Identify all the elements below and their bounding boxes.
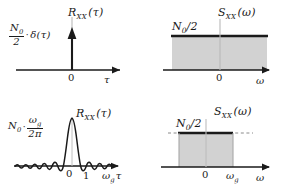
x-tick-label-zero: 0 (202, 170, 209, 180)
curve-label-arg: (ω) (232, 105, 252, 118)
amplitude-label-n0-omegag-2pi: N0· ωg 2π (8, 115, 43, 139)
level-label-base: N (172, 20, 182, 33)
x-axis-arrowhead (111, 163, 119, 170)
level-label-slash: /2 (191, 117, 202, 130)
x-axis-label-omega: ω (256, 76, 264, 86)
amplitude-label-n0-half-delta: N0 2 ·δ(τ) (9, 23, 51, 47)
y-level-label-n0-half: N0/2 (172, 21, 198, 35)
x-axis-label-omegag-tau: ωgτ (102, 171, 121, 184)
curve-label-subscript: XX (76, 13, 86, 21)
fraction-numerator: N0 (9, 23, 24, 37)
fraction-n0-over-2: N0 2 (9, 23, 24, 47)
curve-label-rxx: RXX(τ) (76, 108, 112, 122)
fraction-denominator: 2 (9, 37, 24, 47)
curve-label-sxx: SXX(ω) (214, 106, 252, 120)
x-tick-label-one: 1 (83, 171, 90, 181)
panel-white-noise-autocorrelation: RXX(τ) N0 2 ·δ(τ) 0 τ (0, 0, 140, 97)
x-tick-label-zero: 0 (66, 169, 73, 179)
dirac-impulse-arrowhead (68, 27, 77, 39)
x-axis-label-omega: ω (256, 173, 264, 183)
x-axis-arrowhead (112, 67, 120, 74)
x-tick-label-omegag: ωg (226, 171, 239, 184)
curve-label-base: S (218, 6, 226, 19)
level-label-slash: /2 (187, 20, 198, 33)
level-label-base: N (176, 117, 186, 130)
amplitude-prefix: N0 (8, 121, 21, 134)
x-tick-label-zero: 0 (68, 73, 75, 83)
curve-label-rxx: RXX(τ) (68, 7, 104, 21)
curve-label-subscript: XX (222, 112, 232, 120)
axis-label-suffix: τ (115, 170, 122, 181)
delta-function-label: δ(τ) (30, 30, 50, 40)
figure-container: RXX(τ) N0 2 ·δ(τ) 0 τ SXX(ω) (0, 0, 281, 194)
curve-label-sxx: SXX(ω) (218, 7, 256, 21)
curve-label-arg: (τ) (87, 6, 104, 19)
y-level-label-n0-half: N0/2 (176, 118, 202, 132)
panel-bandlimited-psd: SXX(ω) N0/2 0 ωg ω (141, 97, 281, 194)
tick-label-subscript: g (234, 176, 238, 184)
curve-label-base: S (214, 105, 222, 118)
curve-label-arg: (ω) (236, 6, 256, 19)
fraction-omegag-over-2pi: ωg 2π (27, 115, 42, 139)
fraction-denominator: 2π (27, 129, 42, 139)
panel-bandlimited-autocorrelation: RXX(τ) N0· ωg 2π 0 1 ωgτ (0, 97, 140, 194)
fraction-numerator: ωg (27, 115, 42, 129)
panel-white-noise-psd: SXX(ω) N0/2 0 ω (141, 0, 281, 97)
curve-label-arg: (τ) (95, 107, 112, 120)
x-tick-label-zero: 0 (216, 73, 223, 83)
x-axis-arrowhead (262, 164, 270, 171)
curve-label-subscript: XX (84, 114, 94, 122)
curve-label-subscript: XX (226, 13, 236, 21)
x-axis-label-tau: τ (104, 75, 110, 85)
